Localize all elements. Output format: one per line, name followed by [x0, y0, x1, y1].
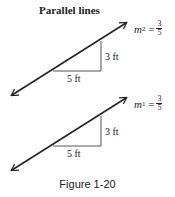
fraction-numerator: 3	[157, 95, 161, 103]
slope-subscript: 2	[142, 25, 146, 33]
rise-label-1: 3 ft	[105, 126, 119, 137]
slope-triangle-2	[53, 41, 101, 71]
slope-label-m2: m2 = 3 5	[134, 20, 162, 37]
slope-variable: m	[134, 98, 142, 110]
fraction-numerator: 3	[157, 20, 161, 28]
fraction-denominator: 5	[157, 104, 161, 112]
slope-variable: m	[134, 23, 142, 35]
run-label-2: 5 ft	[67, 73, 81, 84]
slope-triangle-1	[53, 116, 101, 146]
slope-subscript: 1	[142, 100, 146, 108]
run-label-1: 5 ft	[67, 148, 81, 159]
slope-label-m1: m1 = 3 5	[134, 95, 162, 112]
slope-fraction: 3 5	[156, 95, 162, 112]
slope-fraction: 3 5	[156, 20, 162, 37]
fraction-denominator: 5	[157, 29, 161, 37]
rise-label-2: 3 ft	[105, 51, 119, 62]
figure-caption: Figure 1-20	[0, 178, 175, 190]
